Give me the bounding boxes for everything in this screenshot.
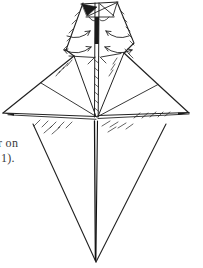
origami-right-wing bbox=[97, 53, 189, 119]
head-top-folds bbox=[82, 3, 117, 21]
fold-arrow-left bbox=[64, 31, 91, 54]
origami-head bbox=[64, 2, 134, 117]
origami-tail bbox=[33, 121, 166, 262]
scanned-book-page-fragment: r on 1). bbox=[0, 0, 203, 268]
origami-left-wing bbox=[3, 56, 97, 119]
origami-diagram-figure bbox=[0, 0, 203, 268]
